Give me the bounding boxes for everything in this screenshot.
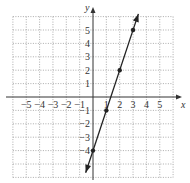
data-point [131, 28, 135, 32]
arrowhead-down-icon [85, 164, 91, 173]
y-tick-label: −2 [79, 118, 90, 129]
coordinate-plane: x y −5−4−3−2−11234554321−1−2−3−4 [0, 0, 190, 183]
x-tick-label: −3 [48, 99, 59, 110]
y-tick-label: −4 [79, 145, 90, 156]
x-axis-label: x [180, 99, 186, 110]
arrowhead-up-icon [133, 14, 139, 23]
x-tick-label: 5 [157, 99, 162, 110]
data-point [118, 68, 122, 72]
y-axis-label: y [84, 2, 90, 13]
data-point [104, 108, 108, 112]
y-tick-label: 5 [85, 25, 90, 36]
y-tick-label: 1 [85, 78, 90, 89]
axes: x y [6, 2, 186, 180]
x-tick-label: 2 [117, 99, 122, 110]
x-tick-label: 3 [131, 99, 136, 110]
x-tick-label: −2 [61, 99, 72, 110]
y-tick-label: 4 [85, 38, 90, 49]
data-point [91, 148, 95, 152]
tick-labels: −5−4−3−2−11234554321−1−2−3−4 [21, 25, 162, 157]
x-tick-label: −4 [34, 99, 45, 110]
y-tick-label: −1 [79, 105, 90, 116]
y-tick-label: 3 [85, 51, 90, 62]
y-tick-label: −3 [79, 132, 90, 143]
x-tick-label: 4 [144, 99, 149, 110]
x-tick-label: −5 [21, 99, 32, 110]
y-axis-arrow-icon [91, 7, 96, 13]
y-tick-label: 2 [85, 65, 90, 76]
